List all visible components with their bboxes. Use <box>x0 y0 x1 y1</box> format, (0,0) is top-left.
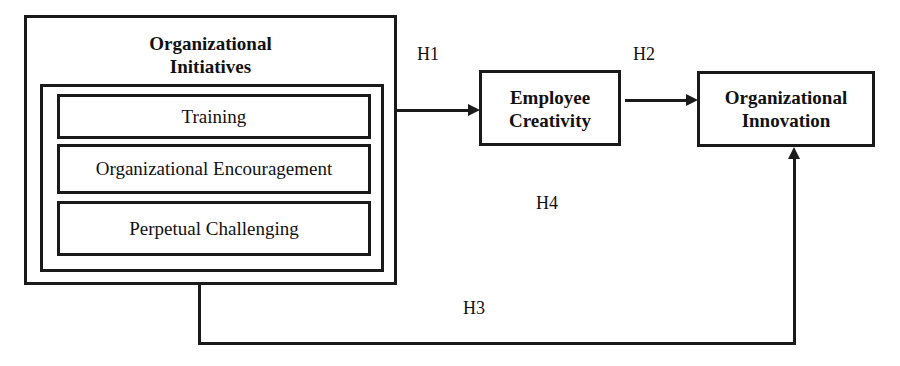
component-organizational-encouragement: Organizational Encouragement <box>57 144 371 194</box>
hypothesis-h2-label: H2 <box>633 44 655 65</box>
h2-connector <box>625 99 687 102</box>
employee-creativity-title: Employee Creativity <box>479 86 621 132</box>
organizational-initiatives-title: Organizational Initiatives <box>24 32 397 78</box>
h3-connector-up <box>793 158 796 345</box>
h1-connector <box>397 109 469 112</box>
component-training: Training <box>57 94 371 139</box>
h3-arrowhead-icon <box>788 147 800 159</box>
hypothesis-h4-label: H4 <box>536 193 558 214</box>
h1-arrowhead-icon <box>468 104 480 116</box>
hypothesis-h1-label: H1 <box>417 44 439 65</box>
h3-connector-horizontal <box>198 342 796 345</box>
component-perpetual-challenging: Perpetual Challenging <box>57 201 371 256</box>
organizational-innovation-title: Organizational Innovation <box>697 86 875 132</box>
h3-connector-down <box>198 285 201 345</box>
hypothesis-h3-label: H3 <box>463 298 485 319</box>
h2-arrowhead-icon <box>686 94 698 106</box>
